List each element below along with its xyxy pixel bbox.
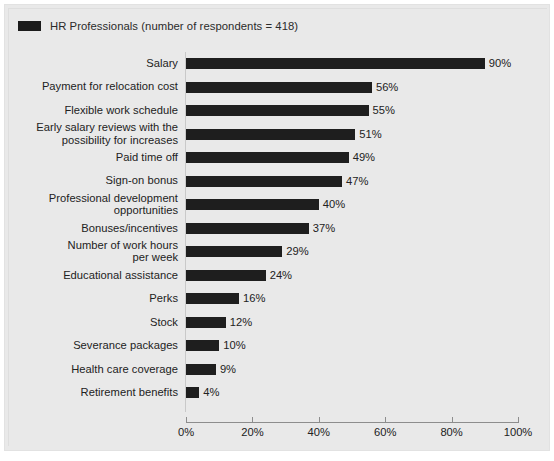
bar-value-label: 9%: [220, 363, 236, 375]
bar: [186, 152, 349, 163]
bar: [186, 223, 309, 234]
bar: [186, 129, 355, 140]
x-axis-tick: [518, 417, 519, 422]
bar: [186, 387, 199, 398]
bar: [186, 317, 226, 328]
bar: [186, 293, 239, 304]
bar: [186, 58, 485, 69]
bar-value-label: 12%: [230, 316, 252, 328]
category-label: Perks: [149, 292, 178, 304]
category-label: Educational assistance: [63, 269, 178, 281]
bar-value-label: 51%: [359, 128, 381, 140]
category-label: Retirement benefits: [81, 386, 178, 398]
bar-value-label: 47%: [346, 175, 368, 187]
category-label: Early salary reviews with the possibilit…: [36, 121, 178, 146]
bar: [186, 82, 372, 93]
bar-value-label: 56%: [376, 81, 398, 93]
category-label: Health care coverage: [71, 363, 178, 375]
bar-value-label: 49%: [353, 151, 375, 163]
category-label: Number of work hours per week: [68, 239, 178, 264]
x-axis-line: [186, 422, 519, 423]
category-label: Paid time off: [116, 151, 178, 163]
bar: [186, 340, 219, 351]
bar: [186, 176, 342, 187]
bar-value-label: 37%: [313, 222, 335, 234]
x-axis-tick-label: 80%: [440, 426, 462, 438]
chart-figure: HR Professionals (number of respondents …: [0, 0, 554, 461]
category-label: Payment for relocation cost: [42, 80, 178, 92]
x-axis-tick-label: 60%: [374, 426, 396, 438]
x-axis-tick: [186, 417, 187, 422]
x-axis-tick: [252, 417, 253, 422]
category-label: Sign-on bonus: [106, 174, 178, 186]
x-axis-tick: [452, 417, 453, 422]
x-axis-tick-label: 0%: [178, 426, 194, 438]
bar-value-label: 10%: [223, 339, 245, 351]
bar: [186, 270, 266, 281]
category-label: Stock: [150, 316, 178, 328]
category-label: Flexible work schedule: [64, 104, 178, 116]
bar: [186, 105, 369, 116]
x-axis-tick-label: 40%: [308, 426, 330, 438]
bar: [186, 246, 282, 257]
bar: [186, 364, 216, 375]
category-label: Bonuses/incentives: [81, 222, 178, 234]
bar-value-label: 29%: [286, 245, 308, 257]
bar-value-label: 55%: [373, 104, 395, 116]
bar-value-label: 90%: [489, 57, 511, 69]
bar-value-label: 40%: [323, 198, 345, 210]
bar: [186, 199, 319, 210]
x-axis-tick: [385, 417, 386, 422]
x-axis-tick-label: 100%: [504, 426, 533, 438]
plot-area: 90%56%55%51%49%47%40%37%29%24%16%12%10%9…: [0, 0, 554, 461]
category-label: Severance packages: [73, 339, 178, 351]
x-axis-tick: [319, 417, 320, 422]
category-label: Salary: [146, 57, 178, 69]
bar-value-label: 16%: [243, 292, 265, 304]
x-axis-tick-label: 20%: [241, 426, 263, 438]
category-label: Professional development opportunities: [49, 192, 178, 217]
bar-value-label: 4%: [203, 386, 219, 398]
bar-value-label: 24%: [270, 269, 292, 281]
